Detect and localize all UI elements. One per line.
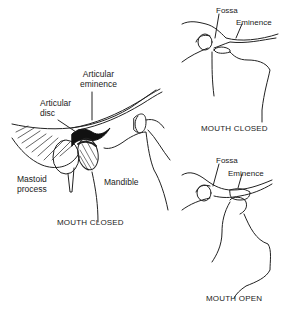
label-eminence-closed: Eminence [236, 18, 272, 28]
label-articular-eminence-line2: eminence [80, 80, 117, 90]
closed-joint-drawing [182, 14, 278, 122]
caption-mouth-open: MOUTH OPEN [206, 294, 262, 303]
caption-top-mouth-closed: MOUTH CLOSED [201, 124, 268, 133]
label-mastoid-line2: process [17, 185, 47, 195]
label-mandible: Mandible [104, 178, 139, 188]
main-joint-drawing [12, 89, 170, 222]
label-articular-eminence: Articular eminence [80, 70, 117, 89]
label-fossa-open: Fossa [216, 156, 238, 166]
tmj-illustration [0, 0, 283, 310]
label-articular-disc-line2: disc [40, 109, 71, 119]
label-fossa-closed: Fossa [216, 6, 238, 16]
label-articular-disc: Articular disc [40, 99, 71, 118]
open-joint-drawing [182, 164, 272, 298]
caption-main-mouth-closed: MOUTH CLOSED [57, 218, 124, 227]
label-eminence-open: Eminence [228, 169, 264, 179]
label-mastoid-process: Mastoid process [17, 175, 47, 194]
